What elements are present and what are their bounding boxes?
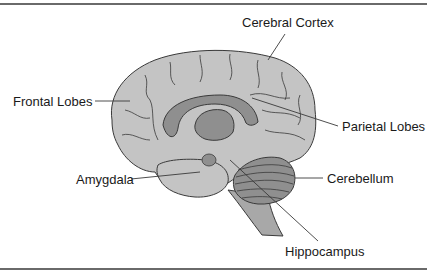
label-amygdala: Amygdala (76, 172, 134, 187)
label-cerebellum: Cerebellum (327, 171, 393, 186)
label-frontal-lobes: Frontal Lobes (13, 94, 93, 109)
temporal-lobe (157, 159, 228, 197)
brain-illustration (0, 0, 427, 272)
label-hippocampus: Hippocampus (285, 244, 365, 259)
label-cerebral-cortex: Cerebral Cortex (242, 15, 334, 30)
amygdala-region (202, 154, 216, 166)
label-parietal-lobes: Parietal Lobes (342, 119, 425, 134)
